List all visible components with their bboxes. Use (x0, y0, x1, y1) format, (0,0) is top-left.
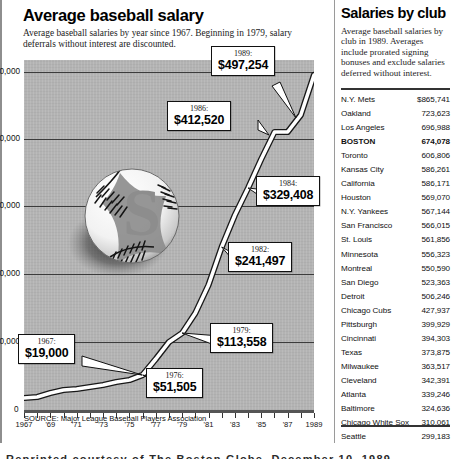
club-salary-amount: $865,741 (417, 93, 450, 107)
x-axis-label-1985: '85 (256, 420, 266, 429)
x-tick-1988 (301, 413, 302, 418)
x-tick-1985 (261, 413, 262, 418)
table-row: Cincinnati394,303 (341, 332, 450, 346)
salaries-by-club-panel: Salaries by club Average baseball salari… (334, 0, 451, 443)
x-tick-1987 (288, 413, 289, 418)
club-salary-amount: 556,323 (421, 248, 450, 262)
figure-caption: Reprinted courtesy of The Boston Globe, … (6, 453, 391, 459)
club-salary-amount: 363,517 (421, 360, 450, 374)
y-axis-label-100000: 100,000 (0, 337, 20, 346)
club-name: BOSTON (341, 135, 375, 149)
club-name: N.Y. Yankees (341, 205, 388, 219)
club-name: Los Angeles (341, 121, 385, 135)
table-row: Toronto606,806 (341, 149, 450, 163)
table-row: Minnesota556,323 (341, 248, 450, 262)
club-name: Minnesota (341, 248, 378, 262)
table-row: Oakland723,623 (341, 107, 450, 121)
y-axis-label-400000: 400,000 (0, 134, 20, 143)
club-salary-amount: 606,806 (421, 149, 450, 163)
y-axis-label-200000: 200,000 (0, 269, 20, 278)
club-name: Toronto (341, 149, 368, 163)
table-row: Chicago White Sox310,061 (341, 416, 450, 430)
club-name: Cincinnati (341, 332, 376, 346)
callout-1976: 1976: $51,505 (146, 368, 203, 398)
table-row: N.Y. Yankees567,144 (341, 205, 450, 219)
callout-1984: 1984: $329,408 (256, 176, 320, 206)
club-salary-amount: 399,929 (421, 318, 450, 332)
source-note: SOURCE: Major League Baseball Players As… (24, 414, 206, 423)
club-salary-amount: 569,070 (421, 191, 450, 205)
club-salary-amount: 342,391 (421, 374, 450, 388)
callout-1986: 1986: $412,520 (167, 101, 231, 131)
table-row: San Francisco566,015 (341, 219, 450, 233)
club-salary-amount: 373,875 (421, 346, 450, 360)
club-name: St. Louis (341, 233, 372, 247)
club-salary-amount: 567,144 (421, 205, 450, 219)
table-row: Cleveland342,391 (341, 374, 450, 388)
club-salary-amount: 586,171 (421, 177, 450, 191)
x-tick-1986 (274, 413, 275, 418)
club-name: Detroit (341, 290, 365, 304)
club-name: Baltimore (341, 402, 375, 416)
table-row: Milwaukee363,517 (341, 360, 450, 374)
table-row: Pittsburgh399,929 (341, 318, 450, 332)
club-name: San Francisco (341, 219, 392, 233)
club-salary-amount: 561,856 (421, 233, 450, 247)
club-salary-amount: 523,363 (421, 276, 450, 290)
callout-1967: 1967: $19,000 (18, 334, 75, 364)
club-name: Houston (341, 191, 371, 205)
club-name: Kansas City (341, 163, 384, 177)
table-row: Kansas City586,261 (341, 163, 450, 177)
x-tick-1983 (235, 413, 236, 418)
page-title: Average baseball salary (23, 6, 204, 25)
club-salary-amount: 339,246 (421, 388, 450, 402)
x-tick-1984 (248, 413, 249, 418)
callout-1979: 1979: $113,558 (210, 323, 273, 353)
club-salary-amount: 427,937 (421, 304, 450, 318)
sidebar-intro: Average baseball salaries by club in 198… (341, 26, 451, 78)
club-name: Chicago Cubs (341, 304, 391, 318)
table-row: California586,171 (341, 177, 450, 191)
club-name: Atlanta (341, 388, 366, 402)
club-name: Oakland (341, 107, 371, 121)
table-row: BOSTON674,078 (341, 135, 450, 149)
club-salary-amount: 550,590 (421, 262, 450, 276)
club-salary-amount: 586,261 (421, 163, 450, 177)
club-salary-amount: 506,246 (421, 290, 450, 304)
table-row: Houston569,070 (341, 191, 450, 205)
divider-top (341, 88, 450, 90)
club-salary-amount: 723,623 (421, 107, 450, 121)
club-salary-amount: 394,303 (421, 332, 450, 346)
club-salary-amount: 674,078 (421, 135, 450, 149)
callout-1982: 1982: $241,497 (228, 242, 292, 272)
table-row: Texas373,875 (341, 346, 450, 360)
table-row: Detroit506,246 (341, 290, 450, 304)
club-salary-amount: 324,636 (421, 402, 450, 416)
table-row: N.Y. Mets$865,741 (341, 93, 450, 107)
club-name: Texas (341, 346, 362, 360)
x-tick-1981 (209, 413, 210, 418)
y-axis-label-0: 0 (14, 405, 19, 414)
club-name: San Diego (341, 276, 378, 290)
table-row: San Diego523,363 (341, 276, 450, 290)
y-axis-label-300000: 300,000 (0, 201, 20, 210)
y-axis-label-500000: $500,000 (0, 67, 20, 76)
table-row: Chicago Cubs427,937 (341, 304, 450, 318)
x-axis-label-1983: '83 (230, 420, 240, 429)
x-axis-label-1989: 1989 (306, 420, 323, 429)
club-name: Chicago White Sox (341, 416, 409, 430)
x-axis-label-1987: '87 (283, 420, 293, 429)
club-name: Montreal (341, 262, 372, 276)
club-name: Pittsburgh (341, 318, 377, 332)
club-name: N.Y. Mets (341, 93, 375, 107)
club-salary-amount: 696,988 (421, 121, 450, 135)
table-row: St. Louis561,856 (341, 233, 450, 247)
table-row: Atlanta339,246 (341, 388, 450, 402)
x-tick-1982 (222, 413, 223, 418)
club-name: Milwaukee (341, 360, 379, 374)
club-name: California (341, 177, 375, 191)
caption-strip: Reprinted courtesy of The Boston Globe, … (0, 443, 451, 459)
sidebar-title: Salaries by club (341, 5, 446, 21)
table-row: Montreal550,590 (341, 262, 450, 276)
callout-1989: 1989: $497,254 (211, 46, 275, 76)
